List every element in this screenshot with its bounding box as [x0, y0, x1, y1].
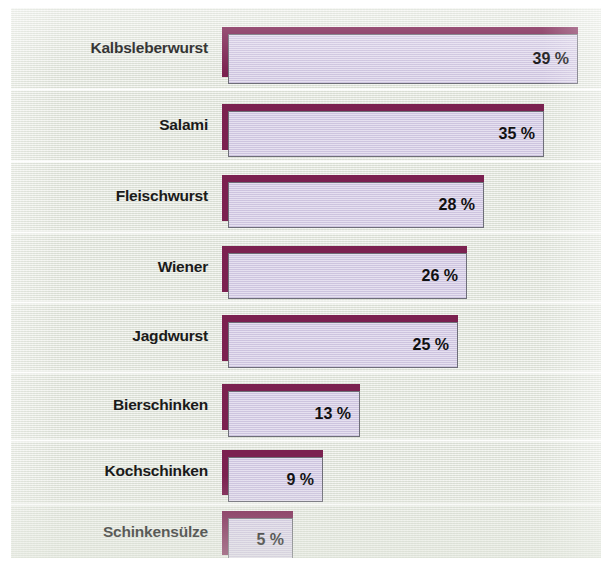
bar-row: Salami 35 %	[11, 88, 601, 160]
bar-value-label: 35 %	[499, 112, 535, 156]
bar-row: Bierschinken 13 %	[11, 371, 601, 439]
bar-face: 13 %	[228, 391, 360, 437]
bar-chart: Kalbsleberwurst 39 % Salami 35 % Fleisch	[0, 0, 609, 566]
row-separator	[11, 231, 601, 234]
bar-row: Schinkensülze 5 %	[11, 503, 601, 558]
row-separator	[11, 301, 601, 304]
chart-panel: Kalbsleberwurst 39 % Salami 35 % Fleisch	[11, 8, 601, 558]
bar-face: 9 %	[228, 457, 323, 502]
bar-row: Wiener 26 %	[11, 231, 601, 301]
bar-face: 39 %	[228, 34, 578, 84]
bar-value-label: 28 %	[439, 183, 475, 227]
bar-row-label: Kochschinken	[11, 462, 208, 480]
bar-row-label: Bierschinken	[11, 396, 208, 414]
bar-row-label: Wiener	[11, 258, 208, 276]
bar-row-label: Kalbsleberwurst	[11, 39, 208, 57]
bar-value-label: 13 %	[315, 392, 351, 436]
bar-row: Kochschinken 9 %	[11, 439, 601, 503]
bar-value-label: 26 %	[422, 254, 458, 298]
bar-value-label: 25 %	[413, 323, 449, 367]
row-separator	[11, 439, 601, 442]
row-separator	[11, 160, 601, 163]
bar-value-label: 39 %	[533, 35, 569, 83]
row-separator	[11, 88, 601, 91]
bar-value-label: 9 %	[286, 458, 314, 501]
bar-face: 26 %	[228, 253, 467, 299]
bar-row: Kalbsleberwurst 39 %	[11, 8, 601, 88]
bar-row: Fleischwurst 28 %	[11, 160, 601, 231]
row-separator	[11, 503, 601, 506]
row-separator	[11, 371, 601, 374]
bar-value-label: 5 %	[256, 519, 284, 558]
bar-row-label: Salami	[11, 116, 208, 134]
bar-row: Jagdwurst 25 %	[11, 301, 601, 371]
bar-row-label: Jagdwurst	[11, 327, 208, 345]
bar-face: 5 %	[228, 518, 293, 558]
bar-row-label: Fleischwurst	[11, 187, 208, 205]
bar-face: 25 %	[228, 322, 458, 368]
bar-face: 28 %	[228, 182, 484, 228]
bar-face: 35 %	[228, 111, 544, 157]
bar-row-label: Schinkensülze	[11, 523, 208, 541]
